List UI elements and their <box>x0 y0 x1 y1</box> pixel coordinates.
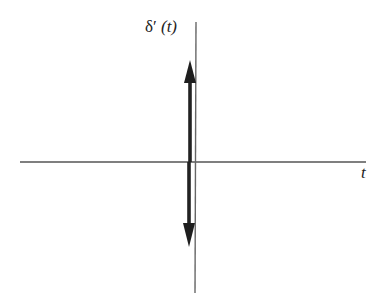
negative-impulse-arrow <box>183 162 195 247</box>
positive-impulse-arrow <box>184 60 196 162</box>
y-axis-label-function: δ′ <box>145 17 157 36</box>
arrowhead-up-icon <box>184 60 196 83</box>
y-axis-label-argument: (t) <box>161 17 177 36</box>
diagram-canvas <box>0 0 384 301</box>
doublet-diagram: δ′ (t) t <box>0 0 384 301</box>
arrowhead-down-icon <box>183 223 195 247</box>
vertical-axis <box>195 22 196 293</box>
x-axis-label: t <box>361 163 366 183</box>
y-axis-label: δ′ (t) <box>145 17 177 37</box>
